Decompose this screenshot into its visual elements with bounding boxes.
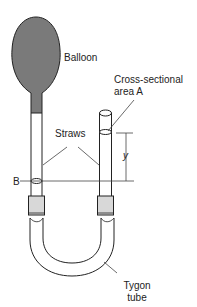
- y-label: y: [123, 150, 128, 161]
- left-straw: [31, 113, 42, 197]
- cross-section-label-line1: Cross-sectional: [114, 74, 183, 85]
- balloon: [12, 17, 60, 113]
- b-label: B: [13, 176, 20, 187]
- tygon-label-line1: Tygon: [121, 280, 153, 291]
- tygon-tube: [30, 218, 114, 276]
- straws-leader-right: [78, 147, 99, 165]
- cross-section-a: [100, 130, 112, 135]
- tygon-label-line2: tube: [121, 292, 153, 303]
- right-straw: [100, 110, 112, 197]
- right-connector: [98, 196, 114, 215]
- balloon-label: Balloon: [64, 52, 97, 63]
- tygon-leader: [104, 262, 117, 273]
- straws-label: Straws: [55, 128, 86, 139]
- straws-leader-left: [43, 147, 67, 165]
- diagram-drawing: [0, 0, 197, 307]
- left-connector: [29, 196, 45, 215]
- u-tube-manometer-diagram: Balloon Cross-sectional area A Straws y …: [0, 0, 197, 307]
- cross-section-label-line2: area A: [114, 86, 143, 97]
